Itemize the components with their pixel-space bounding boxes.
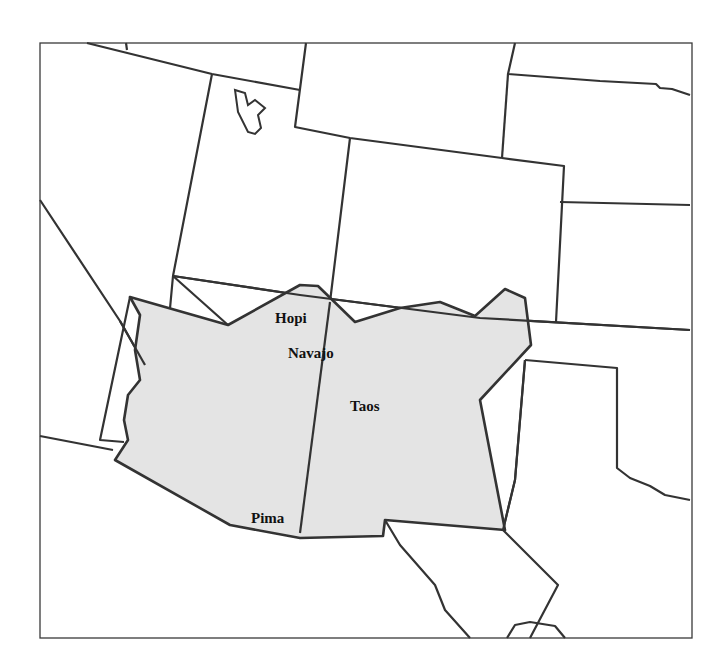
label-navajo: Navajo [288, 345, 334, 361]
label-hopi: Hopi [275, 310, 307, 326]
map: Hopi Navajo Taos Pima [0, 0, 707, 672]
label-pima: Pima [251, 510, 285, 526]
label-taos: Taos [350, 398, 380, 414]
